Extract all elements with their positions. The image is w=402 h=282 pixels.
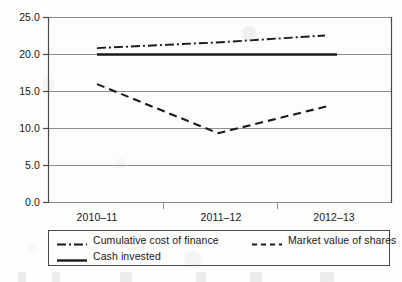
legend-swatch-solid-icon <box>57 251 87 261</box>
x-tick-label-2012-13: 2012–13 <box>294 211 374 223</box>
line-chart: 25.0 20.0 15.0 10.0 5.0 0.0 2010–11 2011… <box>0 0 402 282</box>
y-tick-marks <box>43 18 48 203</box>
y-tick-label-0: 0.0 <box>2 196 40 208</box>
legend-item-market-value-of-shares: Market value of shares <box>252 234 396 246</box>
x-tick-label-2011-12: 2011–12 <box>181 211 261 223</box>
y-tick-label-10: 10.0 <box>2 122 40 134</box>
legend-label-market-value-of-shares: Market value of shares <box>288 234 396 246</box>
y-tick-label-15: 15.0 <box>2 85 40 97</box>
legend-label-cash-invested: Cash invested <box>93 250 161 262</box>
legend-swatch-dash-dot-icon <box>57 235 87 245</box>
legend-swatch-dashed-icon <box>252 235 282 245</box>
gridlines <box>48 18 392 203</box>
chart-legend: Cumulative cost of finance Market value … <box>48 230 390 266</box>
x-tick-marks <box>164 203 278 209</box>
y-tick-label-20: 20.0 <box>2 48 40 60</box>
series-cumulative-cost-of-finance <box>97 36 325 49</box>
legend-item-cash-invested: Cash invested <box>57 250 161 262</box>
legend-label-cumulative-cost-of-finance: Cumulative cost of finance <box>93 234 219 246</box>
y-tick-label-25: 25.0 <box>2 11 40 23</box>
legend-item-cumulative-cost-of-finance: Cumulative cost of finance <box>57 234 219 246</box>
x-tick-label-2010-11: 2010–11 <box>57 211 137 223</box>
axis-lines <box>49 17 392 203</box>
y-tick-label-5: 5.0 <box>2 159 40 171</box>
